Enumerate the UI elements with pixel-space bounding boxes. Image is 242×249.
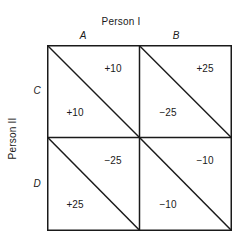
- payoff-bd-person-one: −10: [183, 155, 227, 166]
- diagonal-cell-ac: [48, 46, 140, 138]
- row-header-d: D: [29, 178, 45, 189]
- row-header-c: C: [29, 85, 45, 96]
- diagonal-cell-ad: [48, 138, 140, 231]
- row-axis-title: Person II: [7, 99, 18, 179]
- payoff-bc-person-one: +25: [183, 63, 227, 74]
- diagonal-cell-bd: [140, 138, 232, 231]
- payoff-ac-person-one: +10: [91, 63, 135, 74]
- payoff-ad-person-one: −25: [91, 155, 135, 166]
- payoff-matrix-figure: Person I Person II A B C D +10 +10 +25 −…: [0, 0, 242, 249]
- payoff-bc-person-two: −25: [146, 107, 190, 118]
- column-header-a: A: [73, 30, 93, 41]
- payoff-ad-person-two: +25: [53, 199, 97, 210]
- column-axis-title: Person I: [0, 16, 242, 27]
- column-header-b: B: [166, 30, 186, 41]
- matrix-grid: +10 +10 +25 −25 −25 +25 −10 −10: [47, 45, 232, 231]
- payoff-ac-person-two: +10: [53, 107, 97, 118]
- diagonal-cell-bc: [140, 46, 232, 138]
- payoff-bd-person-two: −10: [146, 199, 190, 210]
